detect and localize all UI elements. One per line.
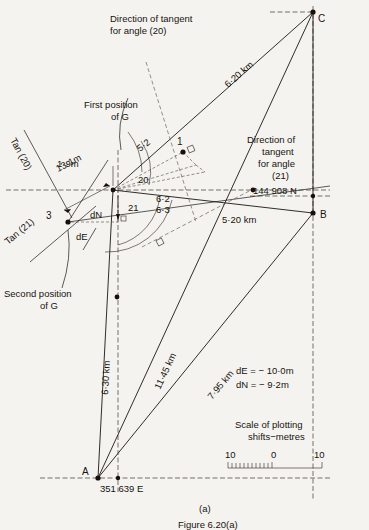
right-angle-marker-3 — [121, 216, 126, 221]
tan-20-line — [24, 130, 72, 218]
scale-bar-tick-left: 10 — [225, 449, 236, 460]
station-dot-on-line — [115, 295, 120, 300]
perp-tick-1 — [183, 152, 196, 165]
angle-arc-21 — [118, 196, 160, 245]
tangent-20-label-line2: for angle (20) — [110, 25, 167, 36]
scale-bar-tick-center: 0 — [271, 449, 276, 460]
offset-line-62 — [113, 165, 196, 190]
angle-label-21: 21 — [128, 202, 139, 213]
offset-line-63 — [113, 172, 205, 190]
tangent-21-label-line1: Direction of — [247, 134, 295, 145]
station-label-c: C — [318, 13, 325, 24]
tan-21-label: Tan (21) — [2, 216, 36, 247]
scale-bar-title-line2: shifts−metres — [248, 431, 305, 442]
distance-label-b-g: 5·20 km — [222, 214, 256, 225]
station-dot-b — [310, 210, 315, 215]
station-dot-a — [95, 475, 100, 480]
right-angle-marker-2 — [156, 238, 164, 246]
scale-bar-title-line1: Scale of plotting — [235, 419, 303, 430]
dimension-label-1-9m: 1·9m — [57, 158, 79, 169]
diagram-canvas: Direction of tangent for angle (20) Dire… — [0, 0, 369, 530]
angle-label-20: 20 — [138, 174, 149, 185]
station-dot-g-first — [111, 188, 116, 193]
tangent-21-label-line4: (21) — [272, 170, 289, 181]
dimension-label-6-3: 6·3 — [156, 204, 170, 215]
dimension-label-5-2: 5·2 — [134, 136, 152, 153]
survey-diagram-figure: Direction of tangent for angle (20) Dire… — [0, 0, 369, 530]
shift-dn-value: dN = − 9·2m — [236, 379, 289, 390]
figure-number-caption: Figure 6.20(a) — [178, 519, 238, 530]
shift-de-value: dE = − 10·0m — [236, 365, 294, 376]
ray-a-to-g — [98, 190, 113, 478]
leader-second-position — [62, 230, 69, 288]
station-dot-1 — [180, 149, 185, 154]
dimension-label-dn: dN — [90, 209, 102, 220]
second-position-label-line1: Second position — [4, 288, 72, 299]
right-angle-marker-1 — [187, 145, 195, 153]
tangent-20-direction-ray — [146, 62, 196, 222]
line-a-to-c — [98, 12, 313, 478]
dimension-label-6-2: 6·2 — [156, 193, 170, 204]
dimension-dn — [116, 196, 120, 220]
first-position-label-line1: First position — [84, 99, 138, 110]
station-dot-3 — [65, 219, 70, 224]
northing-label: 144 908 N — [253, 185, 297, 196]
second-position-label-line2: of G — [40, 300, 58, 311]
subfigure-label: (a) — [199, 503, 211, 514]
station-dot-c — [310, 9, 315, 14]
tangent-21-label-line3: for angle — [258, 158, 295, 169]
easting-label: 351 639 E — [100, 483, 143, 494]
first-position-label-line2: of G — [111, 111, 129, 122]
station-label-3: 3 — [46, 210, 52, 221]
distance-label-a-g: 6·30 km — [99, 360, 112, 395]
tangent-20-label-line1: Direction of tangent — [110, 13, 193, 24]
dimension-13-1m — [64, 183, 110, 213]
scale-bar-tick-right: 10 — [314, 449, 325, 460]
tangent-21-label-line2: tangent — [262, 146, 294, 157]
station-dot-northing — [311, 194, 315, 198]
distance-label-a-c: 11·45 km — [152, 351, 178, 391]
perp-tick-2 — [196, 165, 205, 172]
station-dot-easting — [116, 476, 120, 480]
distance-label-c-g: 6·20 km — [222, 59, 255, 90]
station-label-a: A — [82, 466, 89, 477]
distance-label-a-b: 7·95 km — [205, 368, 236, 401]
scale-bar-graphic — [228, 462, 322, 468]
station-label-1: 1 — [177, 136, 183, 147]
dimension-label-de: dE — [76, 231, 88, 242]
station-label-b: B — [320, 209, 327, 220]
